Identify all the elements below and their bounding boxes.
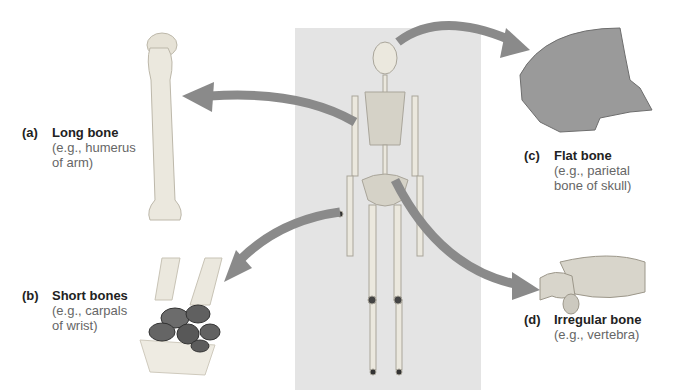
label-short-bones: (b)Short bones (e.g., carpals of wrist) xyxy=(22,288,128,333)
label-example: of wrist) xyxy=(22,318,128,333)
label-name: Short bones xyxy=(52,288,128,303)
label-tag: (b) xyxy=(22,288,52,303)
label-name: Irregular bone xyxy=(554,312,641,327)
carpals-short-bones-image xyxy=(140,258,222,375)
label-name: Long bone xyxy=(52,125,118,140)
humerus-long-bone-image xyxy=(147,33,181,220)
label-example: (e.g., carpals xyxy=(22,303,128,318)
label-tag: (a) xyxy=(22,125,52,140)
label-tag: (c) xyxy=(524,148,554,163)
label-example: of arm) xyxy=(22,155,136,170)
label-tag: (d) xyxy=(524,312,554,327)
arrowhead-long-bone-icon xyxy=(182,82,214,112)
arrow-to-long-bone xyxy=(210,95,355,122)
label-example: bone of skull) xyxy=(524,178,631,193)
parietal-flat-bone-image xyxy=(520,28,652,132)
label-example: (e.g., humerus xyxy=(22,140,136,155)
label-long-bone: (a)Long bone (e.g., humerus of arm) xyxy=(22,125,136,170)
arrow-to-short-bones xyxy=(240,212,340,260)
label-irregular-bone: (d)Irregular bone (e.g., vertebra) xyxy=(524,312,641,342)
arrow-to-flat-bone xyxy=(398,25,510,42)
vertebra-irregular-bone-image xyxy=(540,256,645,314)
pointer-arrows xyxy=(210,25,520,285)
label-example: (e.g., vertebra) xyxy=(524,327,641,342)
arrowhead-irregular-bone-icon xyxy=(512,272,540,300)
arrowhead-flat-bone-icon xyxy=(500,28,530,58)
label-example: (e.g., parietal xyxy=(524,163,631,178)
label-name: Flat bone xyxy=(554,148,612,163)
arrow-to-irregular-bone xyxy=(395,180,520,285)
label-flat-bone: (c)Flat bone (e.g., parietal bone of sku… xyxy=(524,148,631,193)
